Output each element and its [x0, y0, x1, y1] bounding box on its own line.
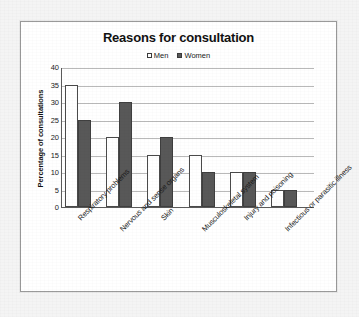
y-axis-tick-20: 20: [51, 134, 59, 142]
legend-swatch-men-icon: [147, 53, 152, 58]
bar-men[interactable]: [65, 85, 78, 208]
x-axis-category-labels: Respiratory problemsNervous and sense or…: [61, 210, 314, 290]
bar-women[interactable]: [78, 120, 91, 208]
y-axis-tick-labels: 0510152025303540: [42, 68, 59, 208]
chart-panel: Reasons for consultation Men Women Perce…: [20, 21, 337, 292]
bar-women[interactable]: [284, 190, 297, 208]
y-axis-tick-35: 35: [51, 82, 59, 90]
chart-title: Reasons for consultation: [21, 30, 336, 45]
legend-swatch-women-icon: [177, 53, 182, 58]
legend-item-women: Women: [177, 51, 210, 60]
y-axis-tick-30: 30: [51, 99, 59, 107]
legend-item-men: Men: [147, 51, 169, 60]
y-axis-tick-15: 15: [51, 152, 59, 160]
legend-label-women: Women: [184, 51, 210, 60]
bar-men[interactable]: [189, 155, 202, 208]
legend-label-men: Men: [154, 51, 169, 60]
y-axis-tick-40: 40: [51, 64, 59, 72]
y-axis-tick-0: 0: [55, 204, 59, 212]
x-axis-label: Skin: [159, 206, 175, 222]
bar-women[interactable]: [202, 172, 215, 207]
y-axis-tick-5: 5: [55, 187, 59, 195]
chart-legend: Men Women: [21, 51, 336, 60]
bar-group: [189, 68, 230, 207]
bar-women[interactable]: [119, 102, 132, 207]
bar-group: [65, 68, 106, 207]
y-axis-tick-25: 25: [51, 117, 59, 125]
y-axis-tick-10: 10: [51, 169, 59, 177]
